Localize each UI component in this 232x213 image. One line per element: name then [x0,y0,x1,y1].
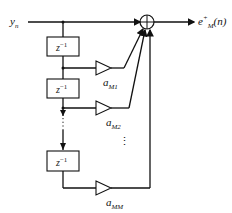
gain-triangle-1 [96,61,111,75]
ellipsis: ⋮ [119,136,130,147]
delay-label-3: z−1 [56,157,67,168]
block-diagram [0,0,232,213]
gain-triangle-m [96,181,111,195]
delay-label-1: z−1 [56,42,67,53]
gain-triangle-2 [96,101,111,115]
coef-label-2: aM2 [106,117,121,131]
input-label: yn [10,16,18,30]
output-label: e+M(n) [198,15,226,30]
coef-label-m: aMM [106,197,123,211]
delay-label-2: z−1 [56,84,67,95]
coef-label-1: aM1 [103,77,118,91]
